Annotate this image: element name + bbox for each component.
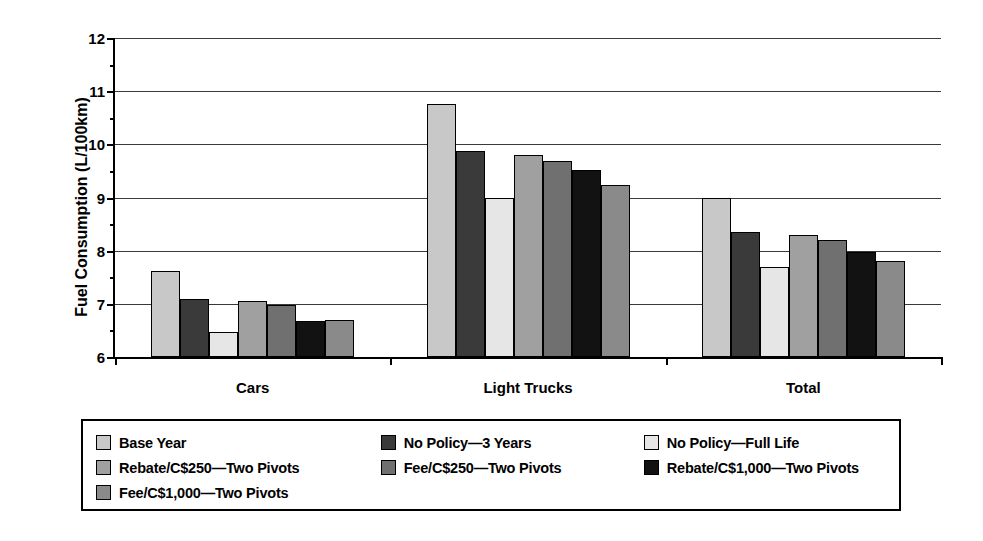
- legend-swatch-icon: [644, 460, 659, 475]
- bar: [731, 232, 760, 357]
- legend-label: No Policy—3 Years: [404, 435, 532, 451]
- legend-label: Rebate/C$250—Two Pivots: [119, 460, 299, 476]
- legend-swatch-icon: [96, 485, 111, 500]
- y-axis-tick-label: 10: [88, 136, 105, 153]
- fuel-consumption-bar-chart: Fuel Consumption (L/100km) 6789101112 Ca…: [0, 0, 983, 541]
- legend-label: Fee/C$1,000—Two Pivots: [119, 485, 288, 501]
- bar: [702, 198, 731, 358]
- bar: [572, 170, 601, 357]
- legend-row: Base YearNo Policy—3 YearsNo Policy—Full…: [96, 430, 899, 455]
- y-axis-tick-label: 9: [97, 189, 105, 206]
- bar: [847, 252, 876, 357]
- legend-swatch-icon: [96, 460, 111, 475]
- bar: [456, 151, 485, 357]
- legend-item[interactable]: Base Year: [96, 435, 381, 451]
- y-axis-tick: [107, 91, 115, 93]
- bar: [876, 261, 905, 357]
- legend-swatch-icon: [381, 460, 396, 475]
- x-axis-tick: [390, 357, 392, 365]
- legend-label: Base Year: [119, 435, 186, 451]
- bar: [296, 321, 325, 357]
- legend-item[interactable]: No Policy—Full Life: [644, 435, 899, 451]
- y-axis-tick-label: 8: [97, 242, 105, 259]
- bar: [427, 104, 456, 357]
- legend-label: Fee/C$250—Two Pivots: [404, 460, 562, 476]
- x-axis-category-label: Cars: [236, 379, 269, 396]
- legend-item[interactable]: Rebate/C$250—Two Pivots: [96, 460, 381, 476]
- chart-legend: Base YearNo Policy—3 YearsNo Policy—Full…: [81, 419, 901, 511]
- bar: [601, 185, 630, 357]
- x-axis-category-label: Total: [786, 379, 821, 396]
- y-axis-tick: [107, 38, 115, 40]
- bar: [267, 305, 296, 357]
- legend-row: Fee/C$1,000—Two Pivots: [96, 480, 899, 505]
- legend-item[interactable]: Fee/C$1,000—Two Pivots: [96, 485, 386, 501]
- legend-swatch-icon: [381, 435, 396, 450]
- y-axis-tick-label: 12: [88, 30, 105, 47]
- legend-swatch-icon: [96, 435, 111, 450]
- bar: [789, 235, 818, 357]
- bar: [818, 240, 847, 357]
- plot-area: 6789101112 CarsLight TrucksTotal: [113, 38, 941, 359]
- y-axis-tick: [107, 198, 115, 200]
- bars-container: [115, 38, 941, 357]
- bar: [238, 301, 267, 357]
- bar: [325, 320, 354, 357]
- x-axis-tick: [115, 357, 117, 365]
- bar: [209, 332, 238, 357]
- legend-item[interactable]: Fee/C$250—Two Pivots: [381, 460, 644, 476]
- legend-item[interactable]: Rebate/C$1,000—Two Pivots: [644, 460, 899, 476]
- legend-row: Rebate/C$250—Two PivotsFee/C$250—Two Piv…: [96, 455, 899, 480]
- bar: [760, 267, 789, 357]
- legend-label: No Policy—Full Life: [667, 435, 799, 451]
- x-axis-tick: [941, 357, 943, 365]
- legend-label: Rebate/C$1,000—Two Pivots: [667, 460, 859, 476]
- x-axis-tick: [666, 357, 668, 365]
- y-axis-tick: [107, 144, 115, 146]
- bar: [543, 161, 572, 357]
- bar: [485, 198, 514, 358]
- bar: [514, 155, 543, 357]
- y-axis-tick-label: 11: [89, 83, 105, 100]
- y-axis-tick: [107, 357, 115, 359]
- bar: [151, 271, 180, 357]
- x-axis-category-label: Light Trucks: [483, 379, 572, 396]
- y-axis-tick: [107, 251, 115, 253]
- y-axis-tick-label: 7: [97, 295, 105, 312]
- legend-item[interactable]: No Policy—3 Years: [381, 435, 644, 451]
- y-axis-tick-label: 6: [97, 349, 105, 366]
- y-axis-tick: [107, 304, 115, 306]
- legend-swatch-icon: [644, 435, 659, 450]
- bar: [180, 299, 209, 357]
